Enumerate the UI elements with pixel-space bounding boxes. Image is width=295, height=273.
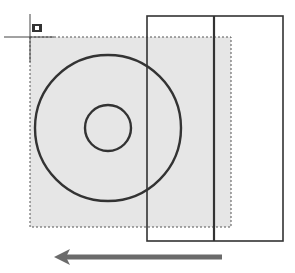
drag-direction-arrow-icon bbox=[54, 249, 222, 265]
drawing-canvas[interactable] bbox=[0, 0, 295, 273]
selection-pickbox-icon bbox=[32, 24, 42, 32]
